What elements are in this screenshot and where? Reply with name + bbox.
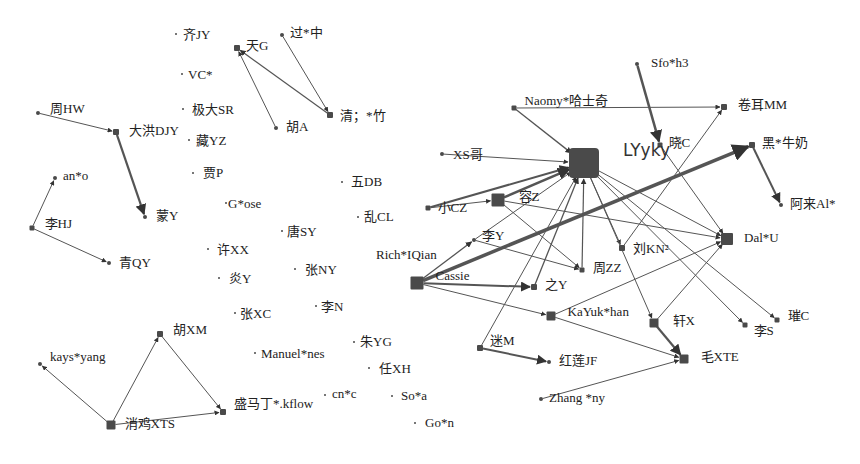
node-zhuYG[interactable]: 朱YG (353, 334, 392, 349)
node-marker[interactable] (635, 62, 639, 66)
node-marker[interactable] (143, 215, 147, 219)
node-huA[interactable]: 胡A (274, 119, 309, 134)
node-marker[interactable] (539, 397, 543, 401)
node-xuXX[interactable]: 许XX (207, 242, 249, 257)
node-marker[interactable] (779, 203, 783, 207)
node-yanY[interactable]: 炎Y (218, 271, 252, 286)
node-marker[interactable] (721, 104, 727, 110)
node-liHJ[interactable]: 李HJ (30, 216, 72, 231)
node-marker[interactable] (207, 248, 209, 250)
node-marker[interactable] (225, 202, 227, 204)
node-marker[interactable] (234, 312, 236, 314)
node-marker[interactable] (341, 181, 343, 183)
node-shengMaDing[interactable]: 盛马丁*.kflow (220, 396, 314, 415)
node-xuanX[interactable]: 轩X (650, 313, 696, 328)
node-tangSY[interactable]: 唐SY (281, 224, 317, 239)
node-marker[interactable] (53, 176, 57, 180)
node-zangYZ[interactable]: 藏YZ (188, 133, 226, 148)
node-marker[interactable] (353, 341, 355, 343)
node-VC[interactable]: VC* (181, 67, 213, 82)
node-marker[interactable] (580, 268, 585, 273)
node-marker[interactable] (411, 277, 424, 290)
node-luanCL[interactable]: 乱CL (357, 209, 394, 224)
node-marker[interactable] (107, 421, 116, 430)
node-marker[interactable] (512, 106, 517, 111)
node-anO[interactable]: an*o (53, 168, 88, 183)
node-qingQY[interactable]: 青QY (107, 255, 151, 270)
node-wuDB[interactable]: 五DB (341, 174, 382, 189)
node-cuiC[interactable]: 璀C (775, 308, 810, 323)
node-cnC[interactable]: cn*c (324, 386, 357, 401)
node-jiaP[interactable]: 贾P (192, 165, 223, 180)
node-jidaSR[interactable]: 极大SR (182, 102, 234, 117)
node-marker[interactable] (113, 129, 119, 135)
node-marker[interactable] (220, 409, 226, 415)
node-marker[interactable] (234, 45, 240, 51)
node-guoZhong[interactable]: 过*中 (280, 25, 323, 40)
node-marker[interactable] (680, 355, 689, 364)
node-marker[interactable] (280, 33, 284, 37)
node-marker[interactable] (547, 360, 551, 364)
node-marker[interactable] (368, 367, 370, 369)
node-renXH[interactable]: 任XH (368, 361, 411, 376)
node-dahongDJY[interactable]: 大洪DJY (113, 123, 179, 138)
node-zhangXC[interactable]: 张XC (234, 306, 271, 321)
node-marker[interactable] (547, 312, 556, 321)
node-marker[interactable] (749, 142, 755, 148)
node-marker[interactable] (294, 268, 296, 270)
node-heiNiunai[interactable]: 黑*牛奶 (749, 135, 808, 150)
node-marker[interactable] (281, 230, 283, 232)
node-marker[interactable] (175, 33, 177, 35)
node-liS[interactable]: 李S (743, 323, 774, 339)
node-LYyky[interactable]: LYyky (569, 140, 670, 178)
node-marker[interactable] (181, 73, 183, 75)
node-marker[interactable] (775, 318, 780, 323)
node-marker[interactable] (569, 148, 599, 178)
node-marker[interactable] (531, 284, 537, 290)
node-hongLianJF[interactable]: 红莲JF (547, 353, 597, 368)
node-zhangNy[interactable]: Zhang *ny (539, 390, 605, 405)
node-marker[interactable] (440, 152, 444, 156)
node-richIQian[interactable]: Rich*IQian (376, 247, 437, 262)
node-marker[interactable] (254, 352, 256, 354)
node-kaysYang[interactable]: kays*yang (38, 349, 106, 366)
node-marker[interactable] (30, 226, 35, 231)
node-tianG[interactable]: 天G (234, 38, 268, 53)
node-marker[interactable] (36, 111, 40, 115)
node-qingZhu[interactable]: 清；*竹 (327, 108, 386, 124)
node-marker[interactable] (38, 362, 42, 366)
node-marker[interactable] (472, 238, 476, 242)
node-zhouZZ[interactable]: 周ZZ (580, 260, 622, 275)
node-mengY[interactable]: 蒙Y (143, 208, 179, 223)
node-sfoH3[interactable]: Sfo*h3 (635, 55, 689, 70)
node-marker[interactable] (192, 172, 194, 174)
node-xiaojiXTS[interactable]: 消鸡XTS (107, 416, 176, 431)
node-marker[interactable] (218, 277, 220, 279)
node-marker[interactable] (324, 394, 326, 396)
node-cassie[interactable]: Cassie (411, 268, 470, 290)
node-marker[interactable] (619, 245, 625, 251)
node-gOse[interactable]: G*ose (225, 196, 261, 211)
node-marker[interactable] (743, 323, 748, 328)
node-qiJY[interactable]: 齐JY (175, 27, 211, 42)
node-maoXTE[interactable]: 毛XTE (680, 349, 739, 364)
node-manuelNes[interactable]: Manuel*nes (254, 346, 325, 361)
node-marker[interactable] (274, 126, 278, 130)
node-miM[interactable]: 迷M (477, 333, 515, 351)
node-dalU[interactable]: Dal*U (721, 230, 779, 245)
node-marker[interactable] (414, 422, 416, 424)
node-marker[interactable] (182, 108, 184, 110)
node-marker[interactable] (391, 395, 393, 397)
node-marker[interactable] (357, 216, 359, 218)
node-goN[interactable]: Go*n (414, 415, 454, 430)
node-juanerMM[interactable]: 卷耳MM (721, 97, 788, 112)
node-marker[interactable] (492, 194, 505, 207)
node-liuKN[interactable]: 刘KN² (619, 241, 669, 256)
node-marker[interactable] (426, 206, 431, 211)
node-marker[interactable] (477, 345, 483, 351)
node-marker[interactable] (721, 233, 733, 245)
node-liN[interactable]: 李N (315, 299, 344, 314)
node-naomy[interactable]: Naomy*哈士奇 (512, 93, 609, 111)
node-zhouHW[interactable]: 周HW (36, 101, 85, 116)
node-huXM[interactable]: 胡XM (157, 322, 207, 337)
